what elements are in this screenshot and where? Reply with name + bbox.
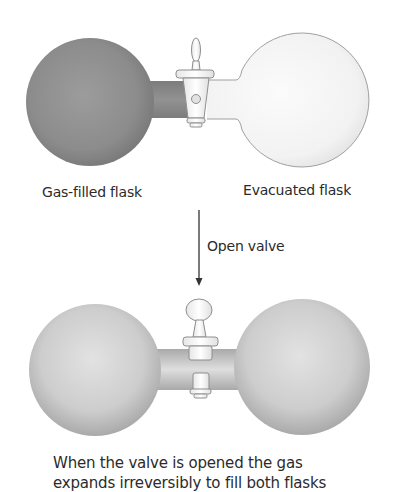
- evacuated-flask-label: Evacuated flask: [243, 182, 351, 198]
- valve-handle-icon: [186, 299, 212, 321]
- down-arrow-icon: [196, 210, 203, 286]
- gas-filled-flask: [26, 38, 189, 166]
- left-flask-filled: [29, 304, 161, 436]
- valve-bore-icon: [192, 95, 201, 104]
- evacuated-flask: [207, 33, 369, 167]
- valve-handle-icon: [192, 38, 201, 62]
- caption-line-1: When the valve is opened the gas: [53, 455, 303, 472]
- right-flask-filled: [234, 299, 370, 435]
- after-apparatus: [29, 299, 370, 436]
- gas-filled-flask-label: Gas-filled flask: [42, 184, 142, 200]
- open-valve-label: Open valve: [207, 238, 285, 254]
- before-apparatus: [26, 33, 369, 167]
- caption-line-2: expands irreversibly to fill both flasks: [53, 475, 326, 492]
